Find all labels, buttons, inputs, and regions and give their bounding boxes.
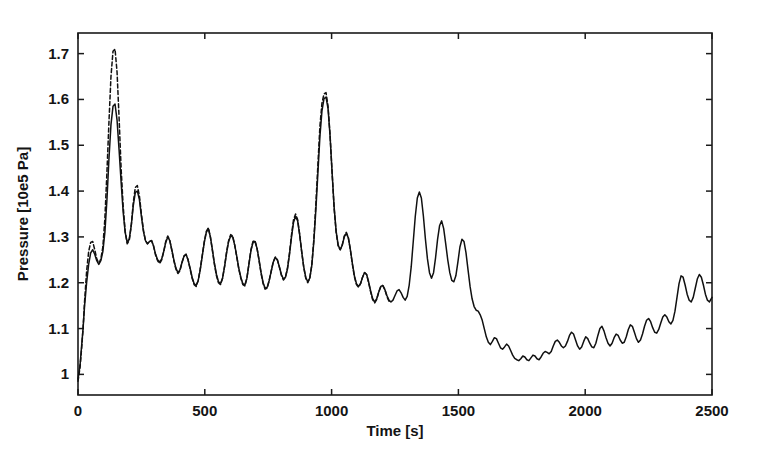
y-axis-title: Pressure [10e5 Pa] (14, 147, 31, 281)
y-tick-label: 1.6 (48, 90, 69, 107)
x-tick-label: 0 (74, 402, 82, 419)
y-tick-label: 1.5 (48, 136, 69, 153)
x-axis-title: Time [s] (366, 422, 423, 439)
x-tick-label: 1500 (442, 402, 475, 419)
y-tick-label: 1.4 (48, 182, 70, 199)
y-tick-label: 1.7 (48, 45, 69, 62)
y-tick-label: 1.1 (48, 320, 69, 337)
x-tick-label: 1000 (315, 402, 348, 419)
y-tick-label: 1 (61, 365, 69, 382)
y-tick-label: 1.3 (48, 228, 69, 245)
x-tick-label: 2000 (569, 402, 602, 419)
y-tick-label: 1.2 (48, 274, 69, 291)
chart-figure: 05001000150020002500 11.11.21.31.41.51.6… (0, 0, 760, 453)
chart-background (0, 0, 760, 453)
pressure-time-line-chart: 05001000150020002500 11.11.21.31.41.51.6… (0, 0, 760, 453)
x-tick-label: 2500 (695, 402, 728, 419)
x-tick-label: 500 (192, 402, 217, 419)
